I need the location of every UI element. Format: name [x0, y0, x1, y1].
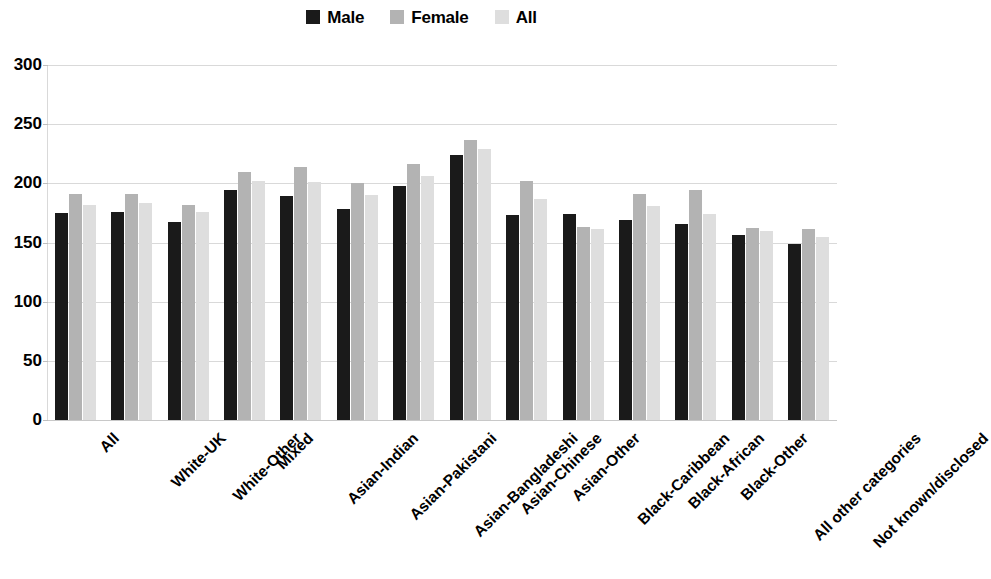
- x-axis: AllWhite-UKWhite-OtherMixedAsian-IndianA…: [0, 420, 843, 579]
- y-axis-tick-mark: [43, 420, 48, 421]
- bar-male[interactable]: [55, 213, 68, 420]
- bar-female[interactable]: [182, 205, 195, 420]
- bar-group: [732, 65, 773, 420]
- bar-female[interactable]: [633, 194, 646, 420]
- bar-group: [224, 65, 265, 420]
- y-axis-tick-label: 300: [0, 56, 42, 73]
- legend-swatch-female: [390, 10, 404, 24]
- bar-group: [506, 65, 547, 420]
- bar-all[interactable]: [421, 176, 434, 420]
- bar-all[interactable]: [478, 149, 491, 420]
- bar-all[interactable]: [760, 231, 773, 420]
- y-axis-tick-label: 250: [0, 115, 42, 132]
- bar-all[interactable]: [534, 199, 547, 420]
- y-axis-tick-mark: [43, 302, 48, 303]
- bar-female[interactable]: [802, 229, 815, 420]
- bar-male[interactable]: [788, 244, 801, 420]
- y-axis-tick-label: 150: [0, 234, 42, 251]
- bar-group: [788, 65, 829, 420]
- bar-all[interactable]: [365, 195, 378, 420]
- bar-group: [563, 65, 604, 420]
- legend-label-all: All: [516, 9, 537, 26]
- legend-swatch-all: [495, 10, 509, 24]
- bar-male[interactable]: [732, 235, 745, 420]
- bar-group: [619, 65, 660, 420]
- x-axis-tick-label: Asian-Pakistani: [407, 430, 500, 523]
- bar-female[interactable]: [69, 194, 82, 420]
- bar-all[interactable]: [647, 206, 660, 420]
- bar-male[interactable]: [506, 215, 519, 420]
- bar-all[interactable]: [139, 203, 152, 420]
- x-axis-tick-label: Not known/disclosed: [870, 430, 991, 551]
- bar-male[interactable]: [168, 222, 181, 420]
- bar-male[interactable]: [450, 155, 463, 420]
- bar-female[interactable]: [520, 181, 533, 420]
- x-axis-tick-label: All other categories: [811, 430, 925, 544]
- bar-male[interactable]: [675, 224, 688, 420]
- bar-all[interactable]: [83, 205, 96, 420]
- legend-swatch-male: [306, 10, 320, 24]
- bar-group: [450, 65, 491, 420]
- x-axis-tick-label: All: [97, 430, 122, 455]
- gridline: [47, 361, 837, 362]
- gridline: [47, 183, 837, 184]
- y-axis-tick-label: 100: [0, 293, 42, 310]
- bar-group: [55, 65, 96, 420]
- bar-group: [111, 65, 152, 420]
- y-axis-tick-label: 200: [0, 174, 42, 191]
- bar-male[interactable]: [224, 190, 237, 420]
- gridline: [47, 124, 837, 125]
- legend-entry-all: All: [495, 9, 537, 26]
- bar-female[interactable]: [746, 228, 759, 420]
- bar-female[interactable]: [577, 227, 590, 420]
- x-axis-tick-label: Asian-Indian: [344, 430, 421, 507]
- bar-male[interactable]: [111, 212, 124, 420]
- bar-female[interactable]: [238, 172, 251, 421]
- legend-label-female: Female: [411, 9, 468, 26]
- bar-male[interactable]: [393, 186, 406, 420]
- gridline: [47, 302, 837, 303]
- y-axis-tick-mark: [43, 124, 48, 125]
- bar-all[interactable]: [816, 237, 829, 420]
- chart-legend: Male Female All: [0, 4, 843, 30]
- bar-group: [393, 65, 434, 420]
- y-axis-tick-mark: [43, 65, 48, 66]
- bar-female[interactable]: [689, 190, 702, 420]
- y-axis-tick-mark: [43, 361, 48, 362]
- gridline: [47, 65, 837, 66]
- legend-entry-female: Female: [390, 9, 468, 26]
- bar-all[interactable]: [308, 182, 321, 420]
- bar-female[interactable]: [125, 194, 138, 420]
- plot-area: [47, 65, 837, 420]
- bar-female[interactable]: [294, 167, 307, 420]
- bar-group: [675, 65, 716, 420]
- bar-group: [168, 65, 209, 420]
- bar-all[interactable]: [196, 212, 209, 420]
- bar-female[interactable]: [351, 183, 364, 420]
- bar-female[interactable]: [407, 164, 420, 420]
- bar-all[interactable]: [252, 181, 265, 420]
- bar-all[interactable]: [703, 214, 716, 420]
- bar-male[interactable]: [280, 196, 293, 420]
- y-axis-tick-label: 50: [0, 352, 42, 369]
- y-axis-tick-mark: [43, 243, 48, 244]
- bar-male[interactable]: [619, 220, 632, 420]
- x-axis-tick-label: White-UK: [168, 430, 229, 491]
- legend-label-male: Male: [327, 9, 364, 26]
- bar-male[interactable]: [563, 214, 576, 420]
- bar-male[interactable]: [337, 209, 350, 420]
- legend-entry-male: Male: [306, 9, 364, 26]
- bar-all[interactable]: [591, 229, 604, 420]
- bar-group: [280, 65, 321, 420]
- bar-female[interactable]: [464, 140, 477, 420]
- y-axis-tick-mark: [43, 183, 48, 184]
- bar-group: [337, 65, 378, 420]
- gridline: [47, 243, 837, 244]
